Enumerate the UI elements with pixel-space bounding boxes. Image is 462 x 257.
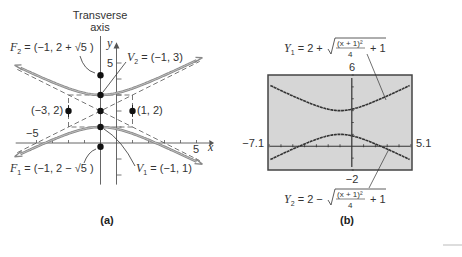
ymax-label: 6 [349, 61, 355, 73]
svg-text:Y2 = 2 −: Y2 = 2 − [284, 192, 323, 207]
svg-text:4: 4 [348, 50, 353, 59]
hyperbola-figure: Transverse axis y x 5 −5 5 F2 = (−1, 2 +… [0, 0, 462, 257]
svg-text:Y1 = 2 +: Y1 = 2 + [284, 41, 323, 56]
y-tick-5: 5 [107, 57, 113, 69]
point-f2 [97, 72, 103, 78]
caption-b: (b) [340, 214, 354, 226]
svg-text:4: 4 [348, 201, 353, 210]
y-axis-label: y [106, 36, 113, 50]
ymin-label: −2 [346, 173, 359, 185]
point-center [97, 108, 103, 114]
focus-f2-label: F2 = (−1, 2 + √5 ) [9, 40, 94, 55]
point-v1 [97, 124, 103, 130]
panel-b-calculator-graph: 6 −2 −7.1 5.1 Y1 = 2 + (x + 1)² 4 + 1 Y2… [242, 38, 431, 226]
y1-formula: Y1 = 2 + (x + 1)² 4 + 1 [284, 38, 386, 59]
point-left-label: (−3, 2) [31, 104, 63, 116]
svg-text:+ 1: + 1 [370, 42, 386, 54]
svg-text:+ 1: + 1 [370, 193, 386, 205]
panel-a-hyperbola-graph: Transverse axis y x 5 −5 5 F2 = (−1, 2 +… [9, 9, 214, 226]
svg-text:(x + 1)²: (x + 1)² [337, 190, 363, 199]
v1-leader-arrow [104, 129, 135, 166]
point-f1 [97, 144, 103, 150]
xmin-label: −7.1 [242, 137, 264, 149]
calculator-screen [268, 75, 412, 170]
x-tick-neg5: −5 [26, 127, 39, 139]
y2-formula: Y2 = 2 − (x + 1)² 4 + 1 [284, 189, 386, 210]
transverse-axis-label: Transverse [73, 9, 128, 21]
xmax-label: 5.1 [416, 137, 431, 149]
f2-leader-arrow [80, 56, 95, 73]
vertex-v1-label: V1 = (−1, 1) [136, 161, 192, 176]
svg-text:(x + 1)²: (x + 1)² [337, 39, 363, 48]
caption-a: (a) [100, 214, 114, 226]
x-axis-label: x [207, 140, 214, 154]
x-tick-5: 5 [193, 143, 199, 155]
point-right-label: (1, 2) [137, 104, 163, 116]
vertex-v2-label: V2 = (−1, 3) [127, 50, 183, 65]
point-v2 [97, 92, 103, 98]
transverse-axis-label-2: axis [90, 21, 110, 33]
focus-f1-label: F1 = (−1, 2 − √5 ) [9, 161, 94, 176]
f1-leader-arrow [84, 149, 96, 163]
